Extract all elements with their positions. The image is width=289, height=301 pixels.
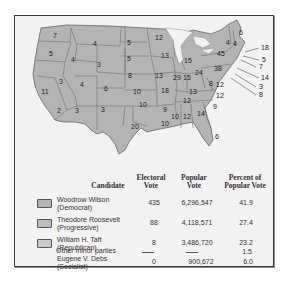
svg-text:8: 8: [209, 80, 213, 87]
candidate-name-text: Eugene V. Debs: [57, 255, 107, 263]
svg-text:10: 10: [171, 113, 179, 120]
svg-text:8: 8: [128, 72, 132, 79]
svg-text:3: 3: [59, 78, 63, 85]
svg-text:2: 2: [57, 107, 61, 114]
percent-popular: 41.9: [231, 199, 261, 207]
header-popular-vote: Popular Vote: [173, 174, 215, 190]
popular-vote: 900,672: [179, 258, 223, 266]
svg-text:3: 3: [75, 107, 79, 114]
candidate-name: Woodrow Wilson (Democrat): [57, 196, 109, 212]
candidate-name-text: Theodore Roosevelt: [57, 216, 120, 224]
table-row-other: Other minor parties 1.5: [14, 224, 272, 244]
svg-text:7: 7: [259, 63, 263, 70]
svg-text:9: 9: [163, 106, 167, 113]
svg-text:4: 4: [233, 40, 237, 47]
svg-text:38: 38: [214, 65, 222, 72]
svg-text:9: 9: [213, 103, 217, 110]
candidate-name-text: Woodrow Wilson: [57, 196, 109, 204]
svg-text:4: 4: [80, 81, 84, 88]
us-electoral-map: 7 5 11 2 4 3 4 3 4 3 6 3 5 5 8 10 10 20 …: [15, 16, 273, 166]
table-row: Woodrow Wilson (Democrat) 435 6,296,547 …: [15, 196, 273, 216]
electoral-vote: 0: [141, 258, 167, 266]
candidate-name-text: Other minor parties: [56, 247, 116, 255]
svg-text:3: 3: [259, 83, 263, 90]
header-electoral-vote: Electoral Vote: [130, 174, 172, 190]
svg-text:12: 12: [155, 34, 163, 41]
svg-text:10: 10: [161, 120, 169, 127]
svg-text:3: 3: [101, 106, 105, 113]
svg-text:15: 15: [184, 57, 192, 64]
svg-text:20: 20: [131, 123, 139, 130]
map-svg: 7 5 11 2 4 3 4 3 4 3 6 3 5 5 8 10 10 20 …: [15, 16, 273, 166]
electoral-vote-dash: [142, 252, 154, 253]
svg-text:24: 24: [195, 69, 203, 76]
svg-text:3: 3: [97, 61, 101, 68]
header-popular-line2: Vote: [173, 182, 215, 190]
svg-text:11: 11: [41, 88, 48, 95]
svg-text:45: 45: [217, 50, 225, 57]
svg-text:5: 5: [127, 55, 131, 62]
electoral-vote: 435: [141, 199, 167, 207]
svg-text:8: 8: [259, 91, 263, 98]
svg-text:12: 12: [216, 81, 224, 88]
percent-popular: 6.0: [233, 258, 263, 266]
svg-text:6: 6: [104, 85, 108, 92]
svg-text:6: 6: [215, 133, 219, 140]
popular-vote: 6,296,547: [175, 199, 219, 207]
svg-text:18: 18: [161, 87, 169, 94]
svg-text:13: 13: [189, 88, 197, 95]
svg-text:14: 14: [197, 110, 205, 117]
table-row: Eugene V. Debs (Socialist) 0 900,672 6.0: [15, 256, 273, 276]
header-electoral-line2: Vote: [130, 182, 172, 190]
us-landmass: [33, 20, 245, 154]
svg-text:29: 29: [173, 74, 181, 81]
candidate-party: (Democrat): [57, 204, 109, 212]
popular-vote-dash: [186, 252, 198, 253]
svg-text:5: 5: [49, 50, 53, 57]
svg-text:13: 13: [161, 52, 169, 59]
svg-text:15: 15: [183, 74, 191, 81]
svg-text:12: 12: [216, 92, 224, 99]
svg-text:5: 5: [127, 39, 131, 46]
svg-text:10: 10: [133, 88, 141, 95]
percent-popular: 1.5: [232, 248, 262, 256]
candidate-party: (Socialist): [57, 263, 107, 271]
svg-text:4: 4: [93, 40, 97, 47]
svg-text:7: 7: [53, 32, 57, 39]
candidate-name: Eugene V. Debs (Socialist): [57, 255, 107, 271]
svg-text:12: 12: [183, 97, 191, 104]
svg-text:10: 10: [139, 101, 147, 108]
svg-text:4: 4: [226, 39, 230, 46]
svg-text:5: 5: [262, 56, 266, 63]
svg-text:12: 12: [183, 113, 191, 120]
svg-text:18: 18: [261, 44, 269, 51]
header-percent-line2: Popular Vote: [217, 182, 273, 190]
legend-swatch-wilson: [37, 199, 52, 208]
svg-text:6: 6: [239, 29, 243, 36]
svg-text:13: 13: [155, 72, 163, 79]
svg-text:14: 14: [261, 74, 269, 81]
header-percent-popular: Percent of Popular Vote: [217, 174, 273, 190]
svg-text:4: 4: [71, 56, 75, 63]
